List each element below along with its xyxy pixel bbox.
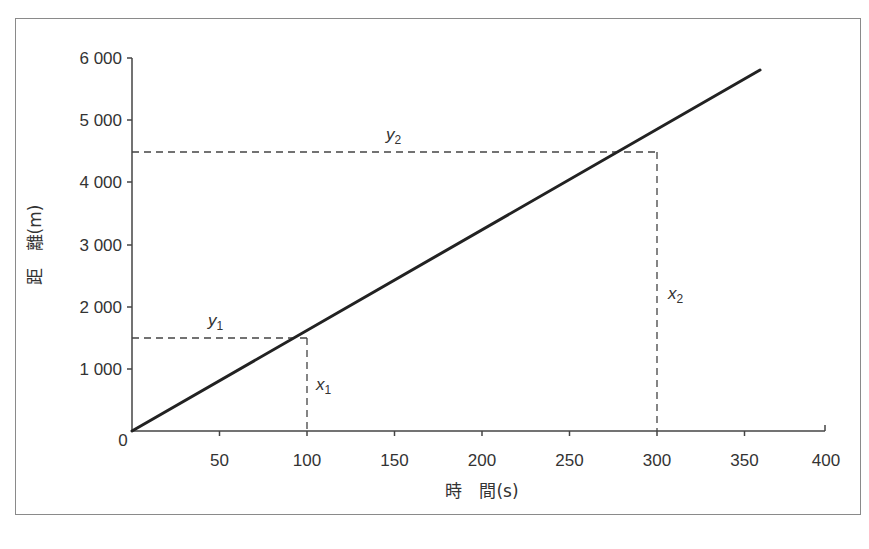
x-tick-label-350: 350 bbox=[730, 451, 758, 470]
y-tick-label-2000: 2 000 bbox=[79, 298, 122, 317]
x-tick-label-400: 400 bbox=[812, 451, 840, 470]
x-axis bbox=[132, 425, 825, 436]
y-axis bbox=[127, 58, 132, 431]
y-tick-label-4000: 4 000 bbox=[79, 173, 122, 192]
x-tick-label-150: 150 bbox=[380, 451, 408, 470]
origin-label: 0 bbox=[118, 431, 127, 450]
x-tick-label-100: 100 bbox=[293, 451, 321, 470]
y-tick-label-5000: 5 000 bbox=[79, 111, 122, 130]
y1-annotation: y1 bbox=[207, 311, 224, 333]
y2-annotation: y2 bbox=[385, 125, 402, 147]
x-tick-label-200: 200 bbox=[468, 451, 496, 470]
x-tick-label-50: 50 bbox=[210, 451, 229, 470]
x2-annotation: x2 bbox=[667, 284, 684, 306]
chart-svg: 6 000 5 000 4 000 3 000 2 000 1 000 0 50… bbox=[0, 0, 869, 549]
y-tick-label-6000: 6 000 bbox=[79, 49, 122, 68]
y-tick-label-3000: 3 000 bbox=[79, 236, 122, 255]
y-axis-title: 距 離(m) bbox=[25, 205, 45, 286]
distance-line bbox=[132, 70, 760, 431]
x-axis-title: 時 間(s) bbox=[445, 481, 518, 501]
x1-annotation: x1 bbox=[315, 375, 332, 397]
x-tick-label-250: 250 bbox=[555, 451, 583, 470]
reference-lines bbox=[132, 152, 657, 431]
y-tick-label-1000: 1 000 bbox=[79, 360, 122, 379]
x-tick-label-300: 300 bbox=[643, 451, 671, 470]
